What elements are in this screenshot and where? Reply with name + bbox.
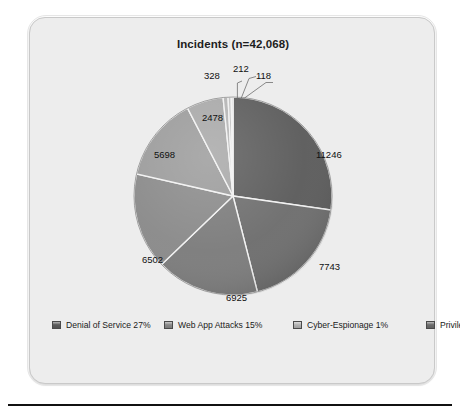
legend-item-privilege-misuse[interactable]: Privilege Misuse 18% xyxy=(426,316,460,334)
legend-swatch-icon xyxy=(52,321,61,329)
chart-legend: Denial of Service 27% Web App Attacks 15… xyxy=(52,316,426,334)
pie-chart-plot-area: 11246 7743 6925 6502 5698 2478 328 212 1… xyxy=(30,18,436,308)
pie-chart-svg xyxy=(30,18,436,308)
slice-value-label-web-app-attacks: 6502 xyxy=(142,254,163,265)
slice-value-label-point-of-sale: 212 xyxy=(233,63,249,74)
legend-item-cyber-espionage[interactable]: Cyber-Espionage 1% xyxy=(293,316,426,334)
legend-item-label: Privilege Misuse 18% xyxy=(440,321,460,330)
figure-panel: Incidents (n=42,068) xyxy=(29,17,435,384)
slice-value-label-crimeware: 6925 xyxy=(226,292,247,303)
leader-line-328 xyxy=(237,81,242,99)
legend-swatch-icon xyxy=(426,321,435,329)
slice-value-label-cyber-espionage: 328 xyxy=(204,70,220,81)
legend-item-label: Web App Attacks 15% xyxy=(178,321,262,330)
slice-value-label-misc-errors: 2478 xyxy=(202,112,223,123)
legend-item-label: Cyber-Espionage 1% xyxy=(307,321,388,330)
slice-value-label-physical-theft-and-loss: 5698 xyxy=(154,149,175,160)
pie-shading-overlay xyxy=(134,97,332,295)
leader-line-118 xyxy=(244,83,273,99)
legend-item-label: Denial of Service 27% xyxy=(66,321,151,330)
slice-value-label-payment-card-skimmers: 118 xyxy=(256,70,271,81)
legend-swatch-icon xyxy=(293,321,302,329)
legend-item-denial-of-service[interactable]: Denial of Service 27% xyxy=(52,316,164,334)
bottom-divider-rule xyxy=(8,404,452,406)
slice-value-label-privilege-misuse: 7743 xyxy=(319,261,340,272)
legend-item-web-app-attacks[interactable]: Web App Attacks 15% xyxy=(164,316,293,334)
slice-value-label-denial-of-service: 11246 xyxy=(316,149,342,160)
legend-swatch-icon xyxy=(164,321,173,329)
